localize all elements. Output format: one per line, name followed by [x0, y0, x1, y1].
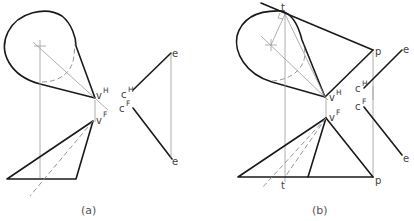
line-vp-front — [326, 118, 373, 177]
hidden-element-tv-front — [285, 118, 326, 177]
label-c-front: c — [355, 101, 361, 112]
label-v-front: v — [96, 115, 102, 126]
svg-text:H: H — [103, 86, 109, 95]
right-angle-mark — [278, 13, 283, 19]
label-v-top: v — [96, 90, 102, 101]
svg-text:H: H — [362, 79, 368, 88]
line-ce-front — [364, 107, 402, 155]
label-v-front: v — [329, 112, 335, 123]
cone-front-view-outline — [7, 121, 93, 179]
label-t-top: t — [281, 2, 285, 13]
svg-text:H: H — [336, 88, 342, 97]
cone-axis-line — [261, 36, 328, 100]
label-p-top: p — [375, 46, 381, 57]
caption-a: (a) — [81, 204, 96, 217]
line-ce-front — [133, 108, 172, 159]
panel-a: v H v F c H c F e e (a) — [5, 11, 179, 217]
svg-text:F: F — [362, 97, 366, 106]
hidden-base-arc — [42, 44, 75, 82]
caption-b: (b) — [312, 204, 328, 217]
hidden-axis-front — [30, 121, 93, 196]
label-p-bottom: p — [375, 175, 381, 186]
element-tv-top — [285, 14, 325, 97]
cone-front-view-outline — [238, 118, 326, 177]
svg-text:F: F — [103, 110, 107, 119]
tangent-plane-trace-top — [261, 3, 373, 50]
label-e-top: e — [172, 48, 178, 59]
line-ce-top — [364, 50, 402, 88]
descriptive-geometry-figure: v H v F c H c F e e (a) — [0, 0, 414, 221]
svg-text:F: F — [336, 108, 340, 117]
label-c-top: c — [355, 83, 361, 94]
line-vp-top — [325, 50, 373, 97]
line-ce-top — [133, 53, 171, 90]
label-c-front: c — [119, 103, 125, 114]
panel-b: t t p p v H v F c H c F e e (b) — [237, 2, 410, 217]
label-e-top: e — [403, 44, 409, 55]
label-e-bottom: e — [403, 153, 409, 164]
svg-text:H: H — [128, 85, 134, 94]
label-t-bottom: t — [281, 180, 285, 191]
svg-text:F: F — [126, 99, 130, 108]
label-e-bottom: e — [172, 156, 178, 167]
label-v-top: v — [329, 92, 335, 103]
cone-top-view-outline — [5, 11, 95, 98]
